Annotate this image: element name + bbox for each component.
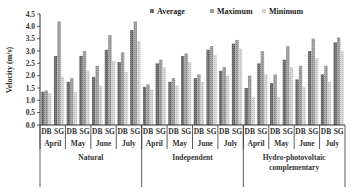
- station-label: SG: [105, 127, 115, 136]
- bar-average: [219, 71, 222, 125]
- station-label: SG: [334, 127, 344, 136]
- month-label: May: [274, 139, 289, 148]
- bar-average: [79, 56, 82, 125]
- bar-minimum: [302, 87, 305, 125]
- scenario-label-natural: Natural: [78, 153, 103, 162]
- bar-maximum: [108, 35, 111, 125]
- bar-minimum: [328, 82, 331, 125]
- station-label: DB: [143, 127, 153, 136]
- legend-label-minimum: Minimum: [269, 7, 304, 16]
- legend-label-maximum: Maximum: [217, 7, 253, 16]
- bar-maximum: [95, 66, 98, 125]
- station-label: SG: [207, 127, 217, 136]
- bar-average: [308, 51, 311, 125]
- bar-minimum: [277, 97, 280, 125]
- bar-maximum: [121, 52, 124, 125]
- y-axis: 0.00.51.01.52.02.53.03.54.04.5: [26, 10, 40, 130]
- month-label: July: [122, 139, 136, 148]
- station-label: DB: [321, 127, 331, 136]
- bar-average: [41, 92, 44, 125]
- month-label: April: [247, 139, 264, 148]
- bar-minimum: [73, 92, 76, 125]
- station-label: DB: [67, 127, 77, 136]
- bar-minimum: [315, 58, 318, 125]
- bar-minimum: [86, 71, 89, 125]
- bar-minimum: [251, 97, 254, 125]
- station-label: SG: [181, 127, 191, 136]
- bar-minimum: [340, 51, 343, 125]
- scenario-label-hydro: Hydro-photovoltaic: [263, 153, 326, 162]
- bar-maximum: [210, 46, 213, 125]
- y-tick-label: 2.5: [26, 59, 36, 68]
- bar-maximum: [45, 90, 48, 125]
- month-label: June: [299, 139, 315, 148]
- station-label: SG: [54, 127, 64, 136]
- bar-minimum: [112, 61, 115, 125]
- station-label: DB: [219, 127, 229, 136]
- bar-maximum: [235, 40, 238, 125]
- bar-maximum: [70, 78, 73, 125]
- bar-minimum: [61, 77, 64, 125]
- bar-average: [270, 83, 273, 125]
- bar-maximum: [312, 39, 315, 125]
- month-label: July: [325, 139, 339, 148]
- bar-maximum: [184, 53, 187, 125]
- bar-minimum: [188, 62, 191, 125]
- bar-maximum: [248, 76, 251, 125]
- bar-maximum: [57, 21, 60, 125]
- bar-average: [206, 50, 209, 125]
- station-label: DB: [117, 127, 127, 136]
- station-label: SG: [232, 127, 242, 136]
- bar-maximum: [261, 51, 264, 125]
- legend-swatch-average: [150, 9, 154, 13]
- station-label: SG: [79, 127, 89, 136]
- month-label: May: [71, 139, 86, 148]
- y-tick-label: 2.0: [26, 71, 36, 80]
- y-tick-label: 1.5: [26, 84, 36, 93]
- station-label: SG: [257, 127, 267, 136]
- bar-maximum: [172, 78, 175, 125]
- month-label: June: [197, 139, 213, 148]
- station-label: DB: [194, 127, 204, 136]
- month-label: July: [224, 139, 238, 148]
- legend: AverageMaximumMinimum: [150, 7, 304, 16]
- bar-chart: 0.00.51.01.52.02.53.03.54.04.5 DBSGDBSGD…: [0, 0, 355, 193]
- bar-average: [130, 30, 133, 125]
- bar-maximum: [299, 66, 302, 125]
- y-axis-label: Velocity (m/s): [5, 46, 14, 93]
- station-label: SG: [130, 127, 140, 136]
- legend-label-average: Average: [157, 7, 185, 16]
- station-label: DB: [168, 127, 178, 136]
- bar-average: [333, 42, 336, 125]
- bar-average: [283, 60, 286, 125]
- bar-average: [295, 79, 298, 125]
- bars: [41, 21, 344, 125]
- station-label: DB: [41, 127, 51, 136]
- x-axis: DBSGDBSGDBSGDBSGDBSGDBSGDBSGDBSGDBSGDBSG…: [40, 125, 345, 187]
- station-label: DB: [92, 127, 102, 136]
- bar-maximum: [197, 74, 200, 125]
- bar-minimum: [264, 74, 267, 125]
- scenario-label-hydro-line2: complementary: [269, 163, 319, 172]
- bar-minimum: [150, 89, 153, 125]
- y-tick-label: 0.5: [26, 108, 36, 117]
- bar-average: [181, 56, 184, 125]
- bar-minimum: [201, 82, 204, 125]
- station-label: SG: [283, 127, 293, 136]
- bar-maximum: [159, 60, 162, 125]
- bar-minimum: [175, 86, 178, 125]
- bar-maximum: [83, 51, 86, 125]
- bar-average: [105, 50, 108, 125]
- station-label: DB: [295, 127, 305, 136]
- bar-average: [117, 62, 120, 125]
- bar-minimum: [137, 41, 140, 125]
- bar-average: [194, 78, 197, 125]
- bar-maximum: [223, 67, 226, 125]
- month-label: April: [146, 139, 163, 148]
- station-label: SG: [308, 127, 318, 136]
- bar-minimum: [239, 49, 242, 125]
- legend-swatch-maximum: [210, 9, 214, 13]
- bar-minimum: [48, 93, 51, 125]
- month-label: May: [172, 139, 187, 148]
- station-label: DB: [270, 127, 280, 136]
